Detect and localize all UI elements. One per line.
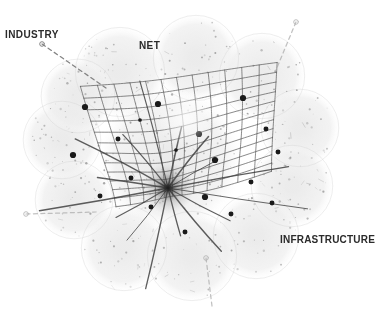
network-mesh-canvas <box>0 0 375 315</box>
label-industry: INDUSTRY <box>5 30 59 40</box>
diagram-canvas: INDUSTRY NET INFRASTRUCTURE <box>0 0 375 315</box>
label-net: NET <box>139 41 160 51</box>
label-infrastructure: INFRASTRUCTURE <box>280 235 375 245</box>
